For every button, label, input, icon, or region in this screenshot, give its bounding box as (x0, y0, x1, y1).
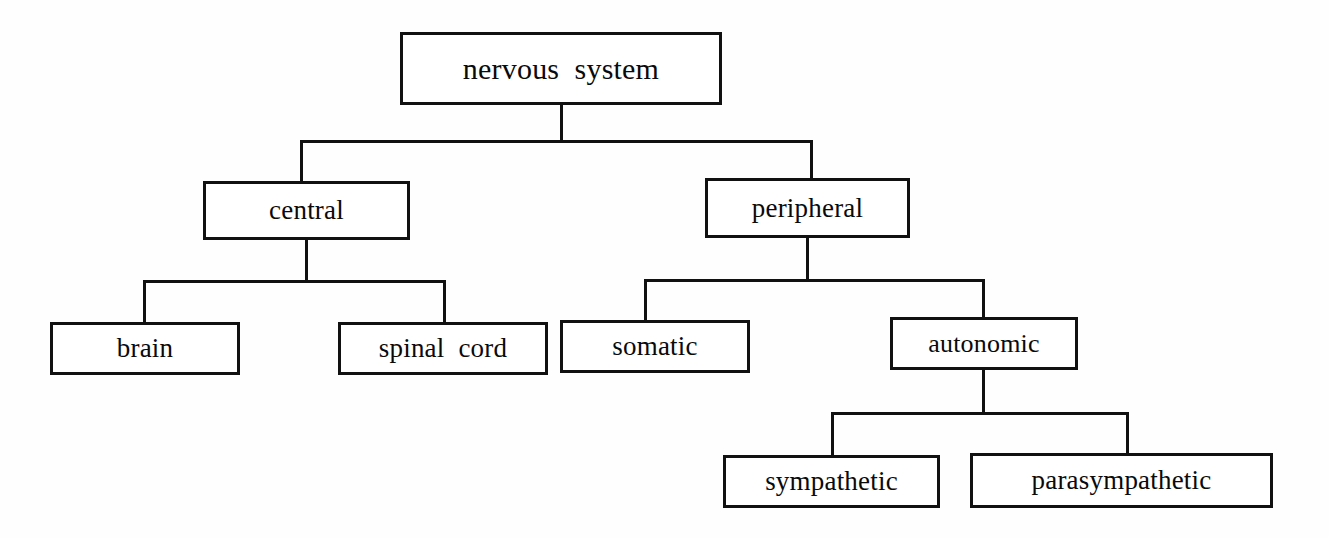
node-label-parasympathetic: parasympathetic (1032, 467, 1212, 494)
connector-edge-to-somatic (644, 279, 647, 323)
node-central[interactable]: central (203, 181, 410, 240)
connector-edge-to-sympathetic (831, 412, 834, 458)
node-brain[interactable]: brain (50, 322, 240, 375)
connector-edge-to-central (300, 140, 303, 183)
connector-edge-to-brain (143, 280, 146, 324)
connector-edge-peripheral-stem (806, 238, 809, 281)
connector-edge-root-bar (300, 140, 813, 143)
node-sympathetic[interactable]: sympathetic (723, 455, 940, 508)
node-label-autonomic: autonomic (928, 331, 1040, 357)
connector-edge-to-spinal-cord (443, 280, 446, 324)
node-label-sympathetic: sympathetic (765, 468, 898, 495)
connector-edge-peripheral-bar (644, 279, 985, 282)
node-label-brain: brain (117, 335, 173, 362)
connector-edge-autonomic-stem (982, 370, 985, 415)
node-autonomic[interactable]: autonomic (890, 317, 1078, 370)
connector-edge-to-autonomic (982, 279, 985, 320)
node-label-spinal-cord: spinal cord (379, 335, 507, 362)
node-peripheral[interactable]: peripheral (705, 178, 910, 238)
connector-edge-to-peripheral (810, 140, 813, 180)
node-label-nervous-system: nervous system (463, 54, 659, 84)
node-spinal-cord[interactable]: spinal cord (338, 322, 548, 375)
connector-edge-autonomic-bar (831, 412, 1129, 415)
node-label-somatic: somatic (612, 333, 697, 360)
connector-edge-root-stem (560, 105, 563, 143)
node-parasympathetic[interactable]: parasympathetic (970, 453, 1273, 508)
connector-edge-central-stem (305, 240, 308, 282)
node-label-peripheral: peripheral (752, 195, 863, 222)
hierarchy-diagram: nervous systemcentralperipheralbrainspin… (0, 0, 1329, 538)
node-nervous-system[interactable]: nervous system (400, 32, 722, 105)
node-label-central: central (269, 197, 344, 224)
node-somatic[interactable]: somatic (560, 320, 750, 373)
connector-edge-central-bar (143, 280, 446, 283)
connector-edge-to-parasympathetic (1126, 412, 1129, 456)
